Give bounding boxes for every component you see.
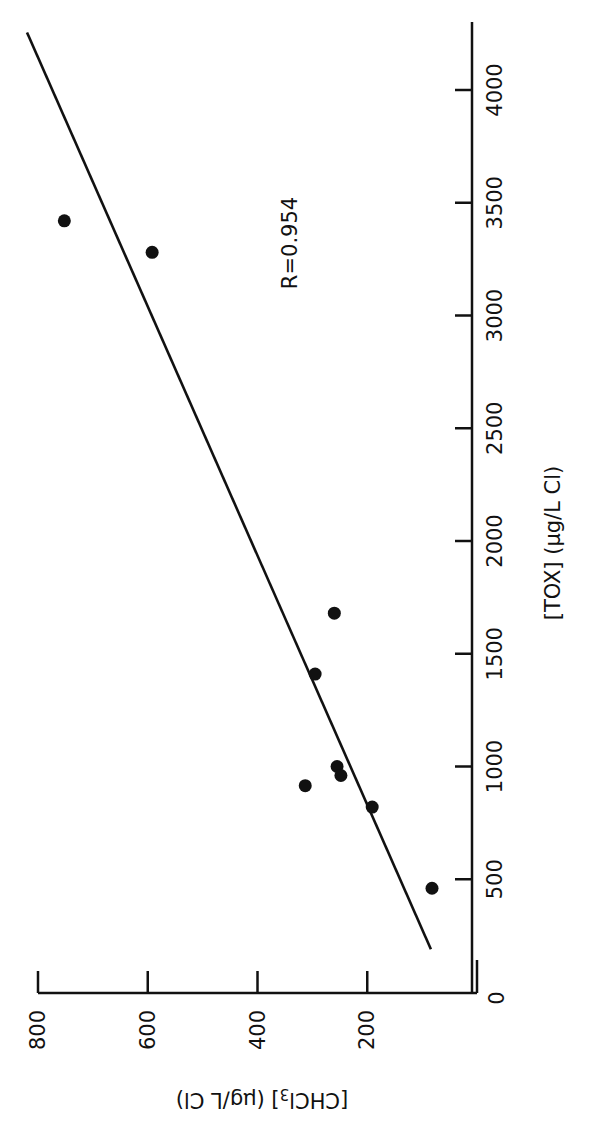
x-axis-ticks: 5001000150020002500300035004000: [455, 63, 507, 899]
x-tick-label: 500: [483, 859, 507, 899]
data-point: [299, 779, 312, 792]
y-axis-title: [CHCl3] (µg/L Cl): [176, 1085, 349, 1112]
y-tick-label: 800: [26, 1010, 50, 1050]
x-tick-label: 4000: [483, 63, 507, 116]
y-axis-ticks: 200400600800: [26, 971, 379, 1050]
y-axis-title-main: [CHCl: [289, 1088, 348, 1112]
x-tick-label: 3500: [483, 176, 507, 229]
correlation-annotation: R=0.954: [278, 197, 302, 289]
data-point: [334, 769, 347, 782]
data-point: [58, 214, 71, 227]
data-point: [366, 801, 379, 814]
x-tick-label: 1000: [483, 740, 507, 793]
data-point: [426, 882, 439, 895]
y-tick-label: 200: [355, 1010, 379, 1050]
y-axis-title-subscript: 3: [280, 1085, 290, 1103]
x-tick-label: 2000: [483, 514, 507, 567]
data-point: [309, 668, 322, 681]
y-axis-chcl3: 200400600800: [26, 960, 477, 1050]
data-point: [146, 246, 159, 259]
x-tick-label: 2500: [483, 402, 507, 455]
x-axis-tox: 5001000150020002500300035004000: [455, 22, 507, 992]
x-tick-label: 3000: [483, 289, 507, 342]
origin-label: 0: [485, 991, 509, 1004]
y-tick-label: 600: [136, 1010, 160, 1050]
x-tick-label: 1500: [483, 627, 507, 680]
y-tick-label: 400: [246, 1010, 270, 1050]
y-axis-title-tail: ] (µg/L Cl): [176, 1088, 280, 1112]
data-point: [328, 607, 341, 620]
scatter-chart: 5001000150020002500300035004000 20040060…: [0, 0, 596, 1146]
x-axis-title: [TOX] (µg/L Cl): [541, 466, 565, 621]
data-points: [58, 214, 439, 894]
